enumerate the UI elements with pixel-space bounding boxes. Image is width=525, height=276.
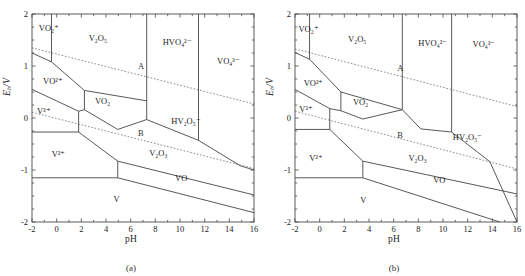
y-tick-label: -2 — [21, 217, 28, 227]
region-label-vo2-plus: VO₂⁺ — [39, 24, 59, 33]
region-label-vo2-solid: VO₂ — [353, 98, 368, 107]
x-tick-label: 6 — [129, 224, 133, 234]
panel-b-y-axis-label: Eh/V — [265, 78, 275, 96]
panel-a-y-axis-label: Eh/V — [2, 78, 12, 96]
region-label-v-3plus: V³⁺ — [299, 105, 313, 114]
x-tick-label: 10 — [439, 224, 448, 234]
region-label-vo-solid: VO — [175, 174, 187, 183]
x-tick-label: -2 — [291, 224, 298, 234]
y-axis-unit: /V — [2, 78, 12, 87]
region-label-vo4-3m: VO₄³⁻ — [473, 40, 496, 49]
region-label-v2o3: V₂O₃ — [408, 154, 426, 163]
water-line-label-A: A — [138, 61, 144, 71]
x-tick-label: 14 — [488, 224, 497, 234]
y-axis-subscript: h — [6, 87, 12, 90]
region-label-vo-2plus: VO²⁺ — [304, 79, 324, 88]
region-label-v2o5: V₂O₅ — [348, 35, 366, 44]
region-label-vo-2plus: VO²⁺ — [43, 77, 63, 86]
region-label-vo-solid: VO — [433, 176, 445, 185]
region-label-vo4-3m: VO₄³⁻ — [217, 57, 240, 66]
y-tick-label: 0 — [24, 113, 28, 123]
x-tick-label: 16 — [513, 224, 522, 234]
x-tick-label: 2 — [79, 224, 83, 234]
x-tick-label: 4 — [367, 224, 372, 234]
region-label-v-metal: V — [113, 195, 119, 204]
y-tick-label: -1 — [284, 165, 291, 175]
water-line-label-B: B — [138, 128, 144, 138]
region-label-vo2-plus: VO₂⁺ — [298, 25, 318, 34]
panel-a-x-axis-label: pH — [0, 234, 262, 244]
y-tick-label: -1 — [21, 165, 28, 175]
x-tick-label: 12 — [200, 224, 209, 234]
panel-b-x-axis-label: pH — [263, 234, 525, 244]
panel-b-caption: (b) — [263, 263, 525, 273]
y-axis-subscript: h — [269, 87, 275, 90]
panel-a-caption: (a) — [0, 263, 262, 273]
panel-a: -20246810121416210-1-2 Eh/V pH (a) VO₂⁺V… — [0, 0, 262, 276]
y-axis-symbol: E — [265, 90, 275, 96]
region-label-hv2o5-m: HV₂O₅⁻ — [453, 133, 482, 142]
region-label-v-2plus: V²⁺ — [309, 154, 323, 163]
region-label-v2o3: V₂O₃ — [149, 149, 167, 158]
y-axis-symbol: E — [2, 90, 12, 96]
x-tick-label: 12 — [463, 224, 472, 234]
region-label-vo2-solid: VO₂ — [95, 97, 110, 106]
x-tick-label: 0 — [318, 224, 322, 234]
region-label-v-metal: V — [360, 196, 366, 205]
y-tick-label: 2 — [287, 9, 291, 19]
region-label-hvo4-2m: HVO₄²⁻ — [163, 38, 192, 47]
region-label-hvo4-2m: HVO₄²⁻ — [418, 39, 447, 48]
y-tick-label: -2 — [284, 217, 291, 227]
x-tick-label: 8 — [416, 224, 420, 234]
x-tick-label: 2 — [342, 224, 346, 234]
y-tick-label: 1 — [287, 61, 291, 71]
y-tick-label: 0 — [287, 113, 291, 123]
pourbaix-figure: -20246810121416210-1-2 Eh/V pH (a) VO₂⁺V… — [0, 0, 525, 276]
x-tick-label: -2 — [28, 224, 35, 234]
y-tick-label: 2 — [24, 9, 28, 19]
region-label-v-3plus: V³⁺ — [37, 107, 51, 116]
x-tick-label: 0 — [55, 224, 59, 234]
region-label-v-2plus: V²⁺ — [52, 150, 66, 159]
x-tick-label: 4 — [104, 224, 109, 234]
x-tick-label: 8 — [153, 224, 157, 234]
region-label-v2o5: V₂O₅ — [89, 34, 107, 43]
x-tick-label: 16 — [250, 224, 259, 234]
x-tick-label: 6 — [392, 224, 396, 234]
water-line-label-A: A — [397, 63, 403, 73]
y-axis-unit: /V — [265, 78, 275, 87]
x-tick-label: 14 — [225, 224, 234, 234]
water-line-label-B: B — [397, 130, 403, 140]
y-tick-label: 1 — [24, 61, 28, 71]
region-label-hv2o5-m: HV₂O₅⁻ — [171, 117, 200, 126]
panel-b: -20246810121416210-1-2 Eh/V pH (b) VO₂⁺V… — [263, 0, 525, 276]
x-tick-label: 10 — [176, 224, 185, 234]
